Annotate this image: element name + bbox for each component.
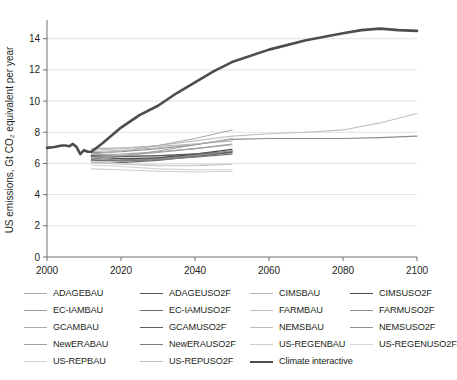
x-tick-label: 2080 [332, 265, 355, 276]
legend-label-cimsbau: CIMSBAU [279, 289, 320, 298]
legend-label-gcambau: GCAMBAU [53, 323, 99, 332]
legend-swatch-us-regenuso2f [350, 344, 373, 345]
legend-item-climate-interactive[interactable]: Climate interactive [250, 353, 353, 370]
legend-item-farmbau[interactable]: FARMBAU [250, 302, 353, 319]
legend-item-ec-iamuso2f[interactable]: EC-IAMUSO2F [140, 302, 236, 319]
y-tick-label: 0 [34, 252, 40, 263]
x-tick-label: 2100 [406, 265, 429, 276]
series-lines [47, 29, 417, 172]
legend-swatch-us-repuso2f [140, 361, 163, 362]
gridlines [47, 39, 417, 226]
legend-item-gcambau[interactable]: GCAMBAU [24, 319, 108, 336]
y-tick-label: 8 [34, 127, 40, 138]
x-tick-label: 2060 [258, 265, 281, 276]
legend-label-us-repbau: US-REPBAU [53, 357, 106, 366]
y-tick-label: 6 [34, 158, 40, 169]
legend-swatch-cimsuso2f [350, 293, 373, 294]
legend-label-us-repuso2f: US-REPUSO2F [169, 357, 233, 366]
legend-column-1: ADAGEBAUEC-IAMBAUGCAMBAUNewERABAUUS-REPB… [24, 285, 108, 370]
legend-item-adagebau[interactable]: ADAGEBAU [24, 285, 108, 302]
legend-label-ec-iamuso2f: EC-IAMUSO2F [169, 306, 231, 315]
legend-label-us-regenuso2f: US-REGENUSO2F [379, 340, 457, 349]
legend-item-newerauso2f[interactable]: NewERAUSO2F [140, 336, 236, 353]
y-axis-title: US emissions, Gt CO₂ equivalent per year [4, 46, 15, 233]
emissions-line-chart: 02468101214 200020202040206020802100 US … [0, 0, 433, 285]
legend-item-ec-iambau[interactable]: EC-IAMBAU [24, 302, 108, 319]
series-line-farmuso2f [91, 136, 417, 152]
legend-label-newerauso2f: NewERAUSO2F [169, 340, 236, 349]
legend-swatch-farmbau [250, 310, 273, 311]
legend-label-farmbau: FARMBAU [279, 306, 323, 315]
legend-item-gcamuso2f[interactable]: GCAMUSO2F [140, 319, 236, 336]
legend-item-nemsuso2f[interactable]: NEMSUSO2F [350, 319, 457, 336]
legend-item-us-regenuso2f[interactable]: US-REGENUSO2F [350, 336, 457, 353]
y-tick-label: 2 [34, 220, 40, 231]
legend-label-climate-interactive: Climate interactive [279, 357, 353, 366]
legend-label-ec-iambau: EC-IAMBAU [53, 306, 103, 315]
y-tick-label: 4 [34, 189, 40, 200]
y-tick-label: 10 [29, 96, 41, 107]
legend-swatch-newerabau [24, 344, 47, 345]
x-tick-label: 2000 [36, 265, 59, 276]
legend-label-gcamuso2f: GCAMUSO2F [169, 323, 226, 332]
legend-label-nemsuso2f: NEMSUSO2F [379, 323, 435, 332]
legend-column-3: CIMSBAUFARMBAUNEMSBAUUS-REGENBAUClimate … [250, 285, 353, 370]
legend-column-2: ADAGEUSO2FEC-IAMUSO2FGCAMUSO2FNewERAUSO2… [140, 285, 236, 370]
legend-swatch-farmuso2f [350, 310, 373, 311]
legend-swatch-cimsbau [250, 293, 273, 294]
legend-item-cimsuso2f[interactable]: CIMSUSO2F [350, 285, 457, 302]
x-tick-label: 2020 [110, 265, 133, 276]
legend-label-newerabau: NewERABAU [53, 340, 108, 349]
legend-item-newerabau[interactable]: NewERABAU [24, 336, 108, 353]
legend-item-cimsbau[interactable]: CIMSBAU [250, 285, 353, 302]
legend-swatch-nemsbau [250, 327, 273, 328]
legend-label-adageuso2f: ADAGEUSO2F [169, 289, 231, 298]
legend-label-adagebau: ADAGEBAU [53, 289, 103, 298]
legend-label-farmuso2f: FARMUSO2F [379, 306, 434, 315]
legend-item-nemsbau[interactable]: NEMSBAU [250, 319, 353, 336]
legend-swatch-us-regenbau [250, 344, 273, 345]
legend-swatch-newerauso2f [140, 344, 163, 345]
legend-swatch-nemsuso2f [350, 327, 373, 328]
x-tick-label: 2040 [184, 265, 207, 276]
legend-column-4: CIMSUSO2FFARMUSO2FNEMSUSO2FUS-REGENUSO2F [350, 285, 457, 353]
legend-swatch-ec-iambau [24, 310, 47, 311]
legend-label-nemsbau: NEMSBAU [279, 323, 324, 332]
legend-swatch-us-repbau [24, 361, 47, 362]
x-axis-ticks: 200020202040206020802100 [36, 257, 429, 276]
legend-item-us-repbau[interactable]: US-REPBAU [24, 353, 108, 370]
plot-area: 02468101214 200020202040206020802100 US … [0, 0, 433, 285]
y-tick-label: 14 [29, 33, 41, 44]
legend-swatch-gcambau [24, 327, 47, 328]
legend-swatch-climate-interactive [250, 361, 273, 363]
legend-item-us-regenbau[interactable]: US-REGENBAU [250, 336, 353, 353]
series-line-climate-interactive [47, 29, 417, 155]
legend-label-us-regenbau: US-REGENBAU [279, 340, 345, 349]
legend-label-cimsuso2f: CIMSUSO2F [379, 289, 432, 298]
legend-item-adageuso2f[interactable]: ADAGEUSO2F [140, 285, 236, 302]
chart-legend: ADAGEBAUEC-IAMBAUGCAMBAUNewERABAUUS-REPB… [0, 285, 433, 380]
legend-swatch-gcamuso2f [140, 327, 163, 328]
legend-item-farmuso2f[interactable]: FARMUSO2F [350, 302, 457, 319]
y-axis-ticks: 02468101214 [29, 33, 47, 262]
legend-item-us-repuso2f[interactable]: US-REPUSO2F [140, 353, 236, 370]
y-tick-label: 12 [29, 64, 41, 75]
legend-swatch-ec-iamuso2f [140, 310, 163, 311]
legend-swatch-adageuso2f [140, 293, 163, 294]
legend-swatch-adagebau [24, 293, 47, 294]
